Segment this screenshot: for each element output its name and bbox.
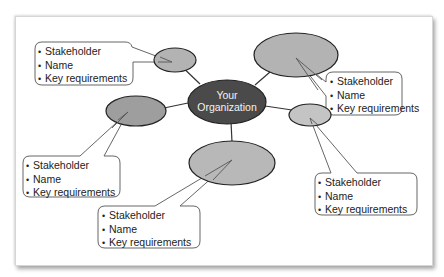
- callout-right-top: Stakeholder Name Key requirements: [330, 75, 419, 116]
- callout-item: Name: [102, 223, 191, 237]
- callout-left-mid: Stakeholder Name Key requirements: [26, 159, 115, 200]
- callout-top-left: Stakeholder Name Key requirements: [38, 45, 127, 86]
- callout-item: Stakeholder: [330, 75, 419, 89]
- stakeholder-node-left[interactable]: [106, 96, 166, 126]
- callout-item: Key requirements: [38, 72, 127, 86]
- callout-item: Name: [26, 173, 115, 187]
- callout-item: Key requirements: [26, 186, 115, 200]
- callout-item: Stakeholder: [102, 209, 191, 223]
- callout-item: Name: [38, 59, 127, 73]
- callout-item: Stakeholder: [38, 45, 127, 59]
- callout-item: Key requirements: [102, 236, 191, 250]
- connector-bottom: [231, 122, 232, 142]
- stakeholder-node-bottom[interactable]: [189, 141, 275, 185]
- callout-bottom-mid: Stakeholder Name Key requirements: [102, 209, 191, 250]
- stakeholder-node-top-right[interactable]: [254, 33, 338, 77]
- stakeholder-node-right[interactable]: [289, 104, 331, 126]
- callout-item: Name: [330, 89, 419, 103]
- callout-item: Stakeholder: [26, 159, 115, 173]
- callout-item: Key requirements: [330, 102, 419, 116]
- stakeholder-node-top-left[interactable]: [154, 48, 196, 72]
- callout-bottom-right: Stakeholder Name Key requirements: [318, 176, 407, 217]
- center-label-line2: Organization: [182, 101, 272, 113]
- callout-item: Key requirements: [318, 203, 407, 217]
- callout-item: Name: [318, 190, 407, 204]
- callout-item: Stakeholder: [318, 176, 407, 190]
- center-label-line1: Your: [182, 89, 272, 101]
- connector-top-right: [255, 72, 270, 85]
- stakeholder-diagram: [0, 0, 444, 277]
- center-node-label: Your Organization: [182, 89, 272, 113]
